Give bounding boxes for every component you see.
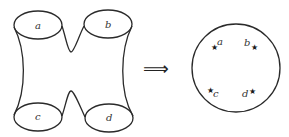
marked-point-d-star-icon: ★ <box>249 87 256 96</box>
point-label-c: c <box>213 88 219 99</box>
implies-arrow-icon: ⟹ <box>143 58 169 79</box>
label-c: c <box>35 111 41 122</box>
right-side-curve <box>123 26 133 116</box>
point-label-b: b <box>244 37 250 48</box>
marked-point-b-star-icon: ★ <box>251 43 258 52</box>
bottom-notch-curve <box>62 91 85 117</box>
point-label-d: d <box>242 88 248 99</box>
top-notch-curve <box>62 26 84 52</box>
label-d: d <box>106 112 112 123</box>
left-side-curve <box>14 27 23 115</box>
label-a: a <box>35 20 41 31</box>
point-label-a: a <box>217 36 223 47</box>
four-holed-surface: a b c d <box>14 10 133 132</box>
topology-diagram: a b c d ⟹ ★ a ★ b ★ c ★ d <box>0 0 289 137</box>
marked-disk: ★ a ★ b ★ c ★ d <box>192 24 280 112</box>
disk-circle <box>192 24 280 112</box>
label-b: b <box>105 19 111 30</box>
